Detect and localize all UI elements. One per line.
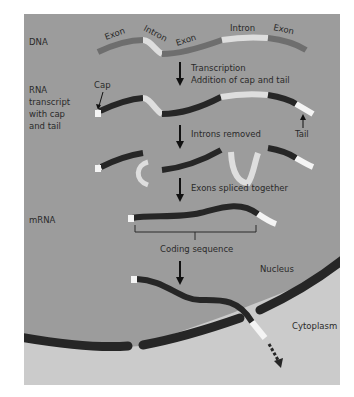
rna-processing-diagram: Exon Intron Exon Intron Exon DNA RNA tra…: [0, 0, 354, 397]
dna-row-label: DNA: [29, 37, 48, 47]
rna-row-label-3: with cap: [29, 109, 65, 119]
coding-sequence-label: Coding sequence: [160, 244, 233, 254]
step-add-cap-tail: Addition of cap and tail: [191, 75, 290, 85]
mrna-row-label: mRNA: [29, 215, 56, 225]
cytoplasm-label: Cytoplasm: [292, 321, 337, 331]
step-transcription: Transcription: [190, 63, 246, 73]
dna-intron2-label: Intron: [230, 23, 255, 33]
step-introns-removed: Introns removed: [191, 129, 261, 139]
step-exons-spliced: Exons spliced together: [191, 183, 289, 193]
cap-label: Cap: [94, 80, 111, 90]
rna-row-label-1: RNA: [29, 85, 47, 95]
nucleus-label: Nucleus: [260, 264, 294, 274]
rna-row-label-2: transcript: [29, 97, 71, 107]
rna-row-label-4: and tail: [29, 121, 61, 131]
tail-label: Tail: [294, 129, 309, 139]
